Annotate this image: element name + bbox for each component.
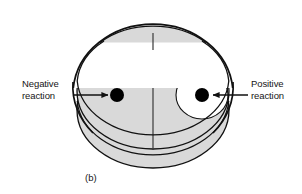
panel-caption: (b) (85, 172, 97, 183)
positive-reaction-label: Positive reaction (251, 78, 284, 101)
negative-reaction-label: Negative reaction (22, 78, 59, 101)
negative-antibiotic-disk (110, 88, 124, 102)
positive-antibiotic-disk (195, 88, 209, 102)
negative-reaction-label-line1: Negative (22, 78, 59, 90)
positive-reaction-label-line2: reaction (251, 90, 284, 102)
negative-reaction-label-line2: reaction (22, 90, 59, 102)
petri-dish-figure: Negative reaction Positive reaction (b) (0, 0, 302, 194)
positive-reaction-label-line1: Positive (251, 78, 284, 90)
